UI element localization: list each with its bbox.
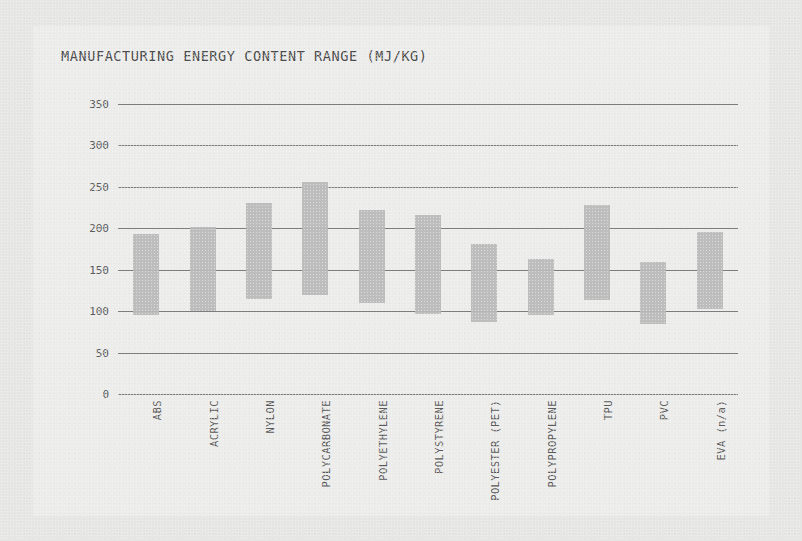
bar[interactable] [471, 244, 497, 322]
chart-title: MANUFACTURING ENERGY CONTENT RANGE (MJ/K… [61, 48, 428, 64]
x-axis-tick-label: POLYPROPYLENE [546, 400, 558, 487]
x-axis-tick-label: PVC [658, 400, 670, 420]
gridline [118, 187, 738, 188]
x-axis-tick-label: TPU [602, 400, 614, 420]
bar[interactable] [190, 227, 216, 311]
y-axis-tick-label: 350 [89, 98, 109, 111]
bar[interactable] [640, 262, 666, 323]
x-axis-tick-label: ABS [151, 400, 163, 420]
x-axis-tick-label: POLYESTER (PET) [489, 400, 501, 501]
y-axis-tick-label: 0 [102, 388, 109, 401]
bar[interactable] [415, 215, 441, 314]
bar[interactable] [302, 182, 328, 295]
x-axis-tick-label: POLYCARBONATE [320, 400, 332, 487]
y-axis-tick-label: 100 [89, 305, 109, 318]
x-axis-tick-label: NYLON [264, 400, 276, 434]
bar[interactable] [697, 232, 723, 309]
y-axis-tick-label: 250 [89, 180, 109, 193]
gridline [118, 353, 738, 354]
y-axis-tick-label: 150 [89, 263, 109, 276]
gridline [118, 394, 738, 395]
bar[interactable] [528, 259, 554, 315]
x-axis-tick-label: ACRYLIC [208, 400, 220, 447]
x-axis-tick-label: POLYETHYLENE [377, 400, 389, 481]
bar[interactable] [584, 205, 610, 300]
x-axis-tick-label: EVA (n/a) [715, 400, 727, 461]
plot-area: 050100150200250300350 ABSACRYLICNYLONPOL… [118, 104, 738, 394]
y-axis-tick-label: 50 [96, 346, 109, 359]
bar[interactable] [246, 203, 272, 299]
y-axis-tick-label: 200 [89, 222, 109, 235]
x-axis-tick-label: POLYSTYRENE [433, 400, 445, 474]
gridline [118, 145, 738, 146]
gridline [118, 104, 738, 105]
bar[interactable] [359, 210, 385, 303]
bar[interactable] [133, 234, 159, 315]
y-axis-tick-label: 300 [89, 139, 109, 152]
